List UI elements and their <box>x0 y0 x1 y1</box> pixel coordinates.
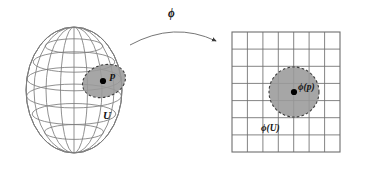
figure-canvas: p U ϕ <box>0 0 370 169</box>
map-arrow-group: ϕ <box>130 7 216 45</box>
coordinate-chart-grid: ϕ(p) ϕ(U) <box>232 32 340 152</box>
point-p-dot <box>100 78 106 84</box>
map-arrow <box>130 32 216 45</box>
image-neighborhood-phi-u-label: ϕ(U) <box>261 123 280 134</box>
image-point-phi-p-label: ϕ(p) <box>298 82 315 93</box>
image-point-phi-p-dot <box>291 89 297 95</box>
manifold-chart-figure: p U ϕ <box>0 0 370 169</box>
sphere-manifold: p U <box>26 27 130 153</box>
neighborhood-u-label: U <box>103 109 112 121</box>
point-p-label: p <box>109 69 116 81</box>
map-phi-label: ϕ <box>168 7 175 20</box>
